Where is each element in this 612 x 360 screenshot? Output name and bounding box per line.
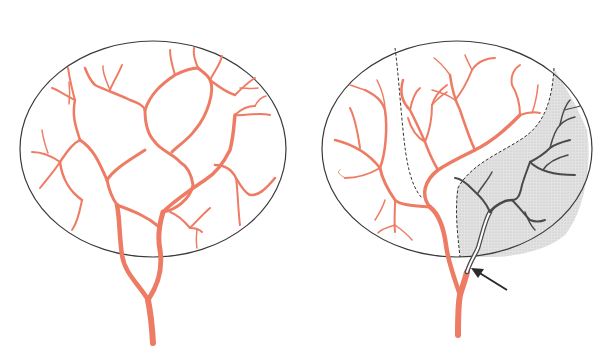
left-panel-normal [20,41,286,343]
ischemic-region [456,68,588,257]
organ-outline-left [20,41,286,257]
vascular-diagram [0,0,612,360]
arrow-indicator [471,268,507,290]
artery-tree-left [32,48,275,343]
right-panel-occluded [322,41,592,335]
territory-boundary-dashed-1 [395,48,422,198]
